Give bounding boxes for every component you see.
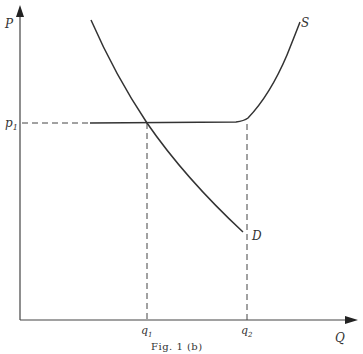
supply-curve: [90, 22, 300, 123]
price-label-p1: p1: [5, 116, 18, 132]
reference-lines: [22, 123, 247, 320]
axes: [16, 5, 358, 324]
demand-curve-label: D: [251, 229, 262, 243]
quantity-label-q2: q2: [241, 324, 253, 339]
supply-curve-label: S: [301, 16, 309, 30]
demand-curve: [91, 20, 243, 232]
figure-caption: Fig. 1 (b): [151, 341, 203, 352]
quantity-label-q1: q1: [141, 324, 153, 339]
x-axis-arrow-icon: [345, 316, 358, 324]
y-axis-label: P: [4, 17, 14, 31]
y-axis-arrow-icon: [16, 5, 24, 17]
x-axis-label: Q: [335, 331, 345, 345]
supply-demand-diagram: P Q p1 q1 q2 S D Fig. 1 (b): [0, 0, 363, 354]
